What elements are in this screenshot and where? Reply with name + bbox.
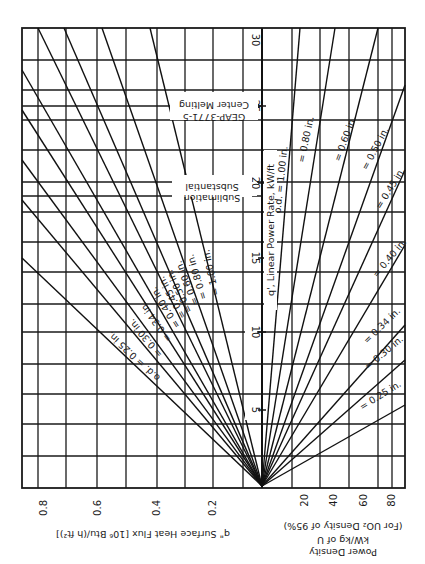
center-tick-5: 5 xyxy=(250,407,261,413)
annotation-center-melting-line1: Center Melting xyxy=(179,100,249,111)
left-tick-0-8: 0.8 xyxy=(38,500,49,516)
right-axis-title-line3: (For UO₂ Density of 95%) xyxy=(284,521,403,532)
right-label-od-0-60: = 0.60 in. xyxy=(332,115,358,163)
right-tick-80: 80 xyxy=(386,494,397,507)
annotation-sublimation-line2: Sublimation xyxy=(184,193,241,204)
annotation-center-melting-line2: GEAP-3771-5 xyxy=(183,112,245,123)
center-tick-10: 10 xyxy=(250,326,261,339)
right-label-od-0-80: = 0.80 in. xyxy=(295,115,315,163)
nomograph-chart: 5 10 15 20 25 30 q', Linear Power Rate, … xyxy=(0,0,425,564)
left-axis-ticks: 0.8 0.6 0.4 0.2 xyxy=(38,500,218,516)
right-axis-title-line2: kW/kg of U xyxy=(317,535,369,546)
right-axis-title-line1: Power Density xyxy=(309,547,377,558)
right-tick-60: 60 xyxy=(358,494,369,507)
center-tick-30: 30 xyxy=(250,34,261,47)
annotation-sublimation-line1: Substantial xyxy=(185,182,238,193)
left-axis-title: q" Surface Heat Flux [10⁶ Btu/(h ft²)] xyxy=(56,529,230,540)
right-tick-40: 40 xyxy=(328,494,339,507)
left-tick-0-4: 0.4 xyxy=(151,500,162,516)
left-tick-0-6: 0.6 xyxy=(92,500,103,516)
right-axis-ticks: 20 40 60 80 xyxy=(299,494,397,507)
right-tick-20: 20 xyxy=(299,494,310,507)
center-tick-15: 15 xyxy=(250,252,261,265)
left-tick-0-2: 0.2 xyxy=(207,500,218,516)
right-label-od-0-50: = 0.50 in. xyxy=(359,125,391,172)
